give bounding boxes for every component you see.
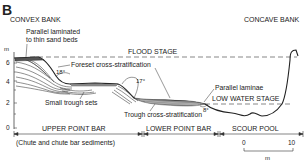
y-tick-6: 6 [6, 59, 10, 66]
flood-stage-label: FLOOD STAGE [128, 48, 178, 55]
upper-bar-top-lens [70, 84, 118, 86]
annotation-small-trough: Small trough sets [45, 99, 98, 107]
point-bar-diagram: B CONVEX BANK CONCAVE BANK m 6 4 2 0 FLO… [0, 0, 306, 167]
low-water-stage-label: LOW WATER STAGE [212, 95, 280, 102]
y-axis-unit: m [4, 46, 9, 52]
leader-parallel-laminated [26, 44, 27, 57]
y-tick-2: 2 [6, 99, 10, 106]
zone-scour-pool: SCOUR POOL [232, 125, 279, 132]
angle-17: 17° [136, 78, 146, 84]
zone-lower-point-bar: LOWER POINT BAR [146, 125, 211, 132]
scale-unit: m [265, 155, 270, 161]
convex-bank-label: CONVEX BANK [10, 16, 61, 23]
zone-upper-point-bar: UPPER POINT BAR [42, 125, 106, 132]
leader-trough [150, 104, 155, 111]
scale-start: 0 [242, 139, 246, 146]
zone-upper-note: (Chute and chute bar sediments) [16, 139, 115, 147]
annotation-trough: Trough cross-stratification [124, 111, 202, 119]
annotation-parallel-laminated-1: Parallel laminated [26, 28, 80, 35]
annotation-parallel-laminated-2: to thin sand beds [26, 36, 78, 43]
y-tick-0: 0 [6, 124, 10, 131]
scale-bar: 0 10 m [242, 139, 296, 161]
angle-8: 8° [203, 107, 209, 113]
annotation-foreset: Foreset cross-stratification [71, 61, 151, 68]
scale-end: 10 [288, 139, 296, 146]
y-tick-4: 4 [6, 78, 10, 85]
leader-foreset-right [155, 68, 170, 98]
angle-18: 18° [56, 69, 66, 75]
leader-foreset-left [58, 65, 70, 67]
annotation-parallel-laminae: Parallel laminae [215, 84, 264, 91]
concave-bank-label: CONCAVE BANK [244, 16, 299, 23]
